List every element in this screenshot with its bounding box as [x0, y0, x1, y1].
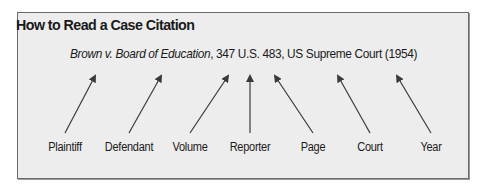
label-reporter: Reporter: [230, 140, 271, 154]
arrow-volume-icon: [190, 76, 228, 133]
label-volume: Volume: [172, 140, 207, 154]
arrow-page-icon: [275, 76, 313, 133]
arrow-defendant-icon: [129, 76, 161, 133]
label-defendant: Defendant: [105, 140, 153, 154]
arrow-court-icon: [338, 76, 370, 133]
label-year: Year: [420, 140, 441, 154]
arrow-year-icon: [397, 76, 431, 133]
arrow-plaintiff-icon: [65, 76, 95, 133]
label-court: Court: [357, 140, 383, 154]
label-page: Page: [301, 140, 326, 154]
label-plaintiff: Plaintiff: [48, 140, 82, 154]
arrows-layer: [0, 0, 483, 189]
